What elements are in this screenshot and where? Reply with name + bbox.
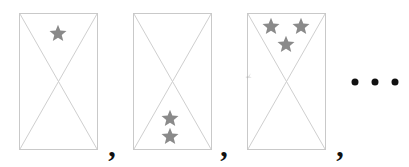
panel-3-star-2	[292, 17, 310, 35]
comma-separator-2: ,	[220, 131, 228, 161]
panel-1-star-1	[49, 24, 67, 42]
ellipsis-dot-1	[352, 79, 359, 86]
panel-2-star-1	[161, 109, 179, 127]
panel-3-star-3	[277, 35, 295, 53]
comma-separator-3: ,	[336, 131, 344, 161]
panel-2-star-2	[161, 127, 179, 145]
panel-3-edge-smudge-icon	[244, 71, 255, 82]
ellipsis-dot-2	[372, 79, 379, 86]
panel-3-star-1	[262, 17, 280, 35]
ellipsis	[352, 79, 399, 86]
ellipsis-dot-3	[392, 79, 399, 86]
comma-separator-1: ,	[108, 131, 116, 161]
figure-canvas: , , ,	[0, 0, 409, 167]
panel-3	[247, 13, 326, 150]
